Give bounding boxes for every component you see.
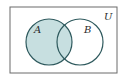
universe-label: U: [104, 11, 113, 22]
venn-diagram: A B U: [0, 0, 121, 77]
set-b-label: B: [83, 24, 91, 35]
set-a-label: A: [33, 24, 41, 35]
